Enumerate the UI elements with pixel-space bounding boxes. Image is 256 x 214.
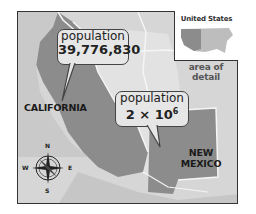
compass-w: W [22, 164, 29, 171]
callout-pointer [145, 125, 165, 155]
us-inset-map: United States [174, 11, 238, 61]
inset-title: United States [175, 15, 238, 23]
california-label: CALIFORNIA [24, 102, 87, 113]
compass-n: N [45, 142, 50, 149]
compass-s: S [45, 187, 49, 194]
compass-e: E [68, 164, 72, 171]
callout-label: population [116, 92, 188, 105]
area-of-detail-label: area of detail [174, 62, 238, 82]
callout-value: 2 × 106 [116, 105, 188, 122]
new-mexico-label: NEW MEXICO [176, 147, 226, 169]
callout-value: 39,776,830 [58, 43, 128, 57]
compass-icon [30, 150, 66, 186]
us-outline [179, 25, 235, 57]
new-mexico-population-callout: population 2 × 106 [115, 91, 189, 127]
callout-pointer [60, 63, 80, 103]
compass-rose: N S W E [30, 150, 66, 186]
california-population-callout: population 39,776,830 [57, 29, 129, 65]
